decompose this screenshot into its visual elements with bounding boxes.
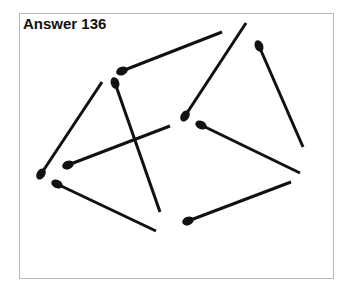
matchstick-body <box>259 46 303 147</box>
matchstick-head <box>61 159 75 171</box>
matchstick-diagram <box>0 0 341 281</box>
matchstick <box>50 178 156 231</box>
matchstick-body <box>201 125 300 173</box>
matchstick-body <box>185 23 246 116</box>
matchstick-body <box>57 184 156 231</box>
matchstick-head <box>253 39 265 53</box>
matchstick-head <box>181 215 195 227</box>
matchstick <box>181 182 291 227</box>
matchstick <box>253 39 303 147</box>
matchstick <box>61 126 170 171</box>
matchstick-body <box>188 182 291 221</box>
matchstick-head <box>194 119 208 132</box>
matchstick-body <box>68 126 170 165</box>
matchstick-head <box>50 178 64 191</box>
matchstick <box>178 23 246 123</box>
matchstick <box>194 119 300 173</box>
matchstick-body <box>122 32 222 71</box>
matchstick-body <box>115 83 160 212</box>
matchstick <box>109 76 160 212</box>
matchstick <box>115 32 222 77</box>
matchstick-body <box>41 82 102 174</box>
matchstick-head <box>109 76 121 90</box>
matchstick-head <box>115 65 129 77</box>
